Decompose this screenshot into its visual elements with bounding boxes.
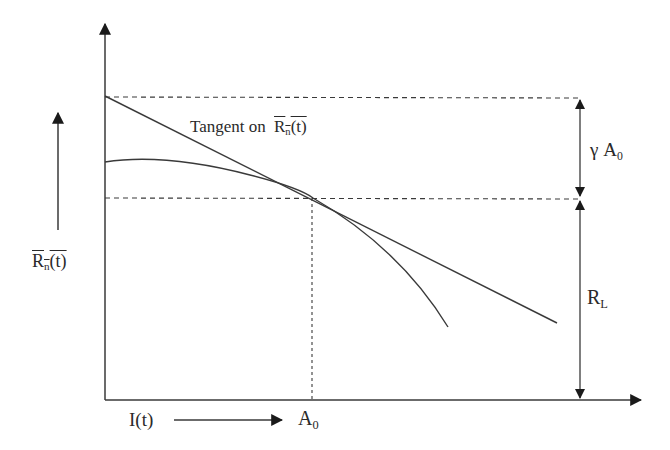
diagram-svg: [0, 0, 670, 450]
diagram-canvas: Tangent on Rn(t) Rn(t) I(t) A0 γ A0 RL: [0, 0, 670, 450]
tangent-label: Tangent on Rn(t): [190, 118, 307, 138]
y-axis-label: Rn(t): [32, 252, 67, 273]
x-axis-label: I(t): [129, 410, 153, 429]
rl-label: RL: [587, 287, 608, 310]
dashed-guides: [105, 97, 580, 400]
a0-marker-label: A0: [298, 408, 319, 431]
gamma-a0-label: γ A0: [590, 140, 623, 162]
